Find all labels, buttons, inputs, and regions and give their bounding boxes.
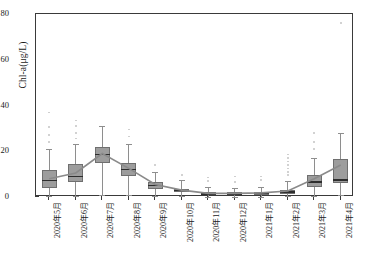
y-axis-tick-label: 60	[0, 54, 9, 64]
x-axis-tick-label: 2020年8月	[131, 202, 142, 238]
y-axis-tick-label: 0	[0, 191, 9, 201]
x-axis-tick-label: 2020年7月	[104, 202, 115, 238]
x-axis-tick-label: 2020年12月	[237, 202, 248, 242]
x-axis-tick-label: 2021年1月	[263, 202, 274, 238]
x-axis-tick-label: 2021年3月	[316, 202, 327, 238]
x-axis-tick-label: 2020年6月	[78, 202, 89, 238]
plot-area	[35, 13, 353, 196]
y-axis-title: Chl-a(μg/L)	[18, 10, 28, 120]
mean-trend-line	[36, 14, 354, 197]
y-axis-tick-label: 80	[0, 8, 9, 18]
x-axis-tick-label: 2020年10月	[184, 202, 195, 242]
x-axis-tick-label: 2021年4月	[343, 202, 354, 238]
chart-figure: Chl-a(μg/L) 020406080 2020年5月2020年6月2020…	[0, 0, 365, 269]
y-axis-tick-label: 20	[0, 145, 9, 155]
x-axis-tick-label: 2020年5月	[51, 202, 62, 238]
boxplot-series	[36, 14, 352, 195]
y-axis-tick-label: 40	[0, 100, 9, 110]
x-axis-tick-label: 2020年9月	[157, 202, 168, 238]
x-axis-tick-label: 2021年2月	[290, 202, 301, 238]
x-axis-tick-label: 2020年11月	[210, 202, 221, 242]
